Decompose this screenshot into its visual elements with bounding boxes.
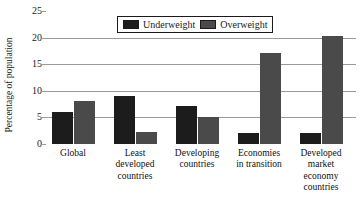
x-tick-label-line: Global <box>42 148 104 160</box>
x-tick-label-line: market <box>290 159 352 171</box>
x-tick-label-line: Developing <box>166 148 228 160</box>
y-axis-tick-labels: 0510152025 <box>20 0 42 210</box>
y-tick-label: 10 <box>20 86 42 96</box>
y-tick-label: 20 <box>20 33 42 43</box>
x-tick-label-line: Developed <box>290 148 352 160</box>
x-tick-label: Global <box>42 148 104 160</box>
y-tick-label: 15 <box>20 59 42 69</box>
x-tick-label-line: countries <box>166 159 228 171</box>
x-tick-label-line: countries <box>290 182 352 194</box>
x-tick-label-line: in transition <box>228 159 290 171</box>
x-tick-label-line: economy <box>290 171 352 183</box>
x-tick-label: Economiesin transition <box>228 148 290 171</box>
legend-swatch-overweight <box>200 20 216 29</box>
chart-legend: UnderweightOverweight <box>117 16 273 33</box>
y-axis-title: Percentage of population <box>2 10 16 160</box>
x-tick-label-line: Economies <box>228 148 290 160</box>
legend-label: Overweight <box>220 19 267 30</box>
legend-item: Underweight <box>123 19 195 30</box>
x-tick-label: Developedmarketeconomycountries <box>290 148 352 194</box>
x-tick-label-line: Least <box>104 148 166 160</box>
y-tick-label: 0 <box>20 139 42 149</box>
x-tick-label: Leastdevelopedcountries <box>104 148 166 183</box>
legend-item: Overweight <box>200 19 267 30</box>
x-tick-label-line: countries <box>104 171 166 183</box>
y-tick-label: 25 <box>20 6 42 16</box>
y-tick-label: 5 <box>20 112 42 122</box>
legend-label: Underweight <box>143 19 195 30</box>
x-tick-label-line: developed <box>104 159 166 171</box>
x-tick-label: Developingcountries <box>166 148 228 171</box>
legend-swatch-underweight <box>123 20 139 29</box>
bar-chart: Percentage of population 0510152025 Glob… <box>0 0 361 210</box>
